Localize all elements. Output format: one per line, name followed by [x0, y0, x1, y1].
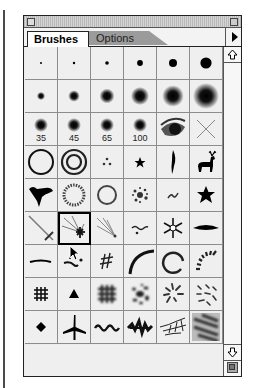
jagged-brush-icon [126, 313, 154, 341]
airplane-brush-icon [60, 313, 88, 341]
palette-menu-icon[interactable] [232, 32, 238, 42]
brush-tip-double-ring[interactable] [58, 146, 91, 179]
brush-tip-soft-round-17[interactable] [124, 80, 157, 113]
brush-tip-arc[interactable] [124, 245, 157, 278]
new-brush-button[interactable] [225, 361, 239, 374]
hard-round-brush-icon [192, 49, 220, 77]
brush-tip-tilde-dot[interactable] [124, 212, 157, 245]
brush-size-label: 65 [91, 133, 123, 143]
brush-tip-dash[interactable] [25, 245, 58, 278]
small-star-brush-icon [126, 148, 154, 176]
brush-tip-starburst[interactable] [58, 212, 91, 245]
scrollbar[interactable] [223, 47, 241, 376]
close-box[interactable] [27, 18, 35, 26]
soft-round-brush-icon [192, 82, 220, 110]
divider [225, 28, 226, 46]
brush-tip-star[interactable] [190, 179, 223, 212]
brush-tip-small-star[interactable] [124, 146, 157, 179]
brush-tip-soft-round-21[interactable] [157, 80, 190, 113]
brush-tip-hard-round-3[interactable] [58, 47, 91, 80]
brush-tip-thin-ring[interactable] [91, 179, 124, 212]
soft-round-brush-icon [27, 82, 55, 110]
brush-tip-wave[interactable] [91, 311, 124, 344]
brush-tip-fuzzy-grid[interactable] [91, 278, 124, 311]
brushes-palette: Brushes Options 354565100 [23, 15, 242, 377]
empty-brush-area [25, 345, 224, 376]
new-brush-icon [227, 362, 238, 373]
hard-round-brush-icon [126, 49, 154, 77]
brush-size-label: 100 [124, 133, 156, 143]
brush-tip-brush-stroke[interactable] [157, 146, 190, 179]
scroll-down-button[interactable] [224, 344, 241, 361]
brush-tip-eye[interactable] [157, 113, 190, 146]
tilde-dot-brush-icon [126, 214, 154, 242]
window-edge [3, 10, 5, 388]
ring-brush-icon [27, 148, 55, 176]
brush-tip-deer[interactable] [190, 146, 223, 179]
brush-tip-hard-round-9[interactable] [124, 47, 157, 80]
arrow-down-icon [227, 347, 238, 358]
rays-brush-icon [93, 214, 121, 242]
brush-tip-duck[interactable] [25, 179, 58, 212]
brush-tip-hard-round-2[interactable] [25, 47, 58, 80]
branches-brush-icon [159, 313, 187, 341]
brush-tip-soft-round-45[interactable]: 45 [58, 113, 91, 146]
palette-title-bar[interactable] [24, 16, 241, 28]
arrow-up-icon [227, 49, 238, 60]
scatter-blobs-brush-icon [126, 280, 154, 308]
brush-tip-x-cross[interactable] [190, 113, 223, 146]
brush-tip-diamond[interactable] [25, 311, 58, 344]
tab-brushes[interactable]: Brushes [27, 31, 89, 47]
snowflake-brush-icon [159, 214, 187, 242]
brush-tip-snowflake[interactable] [157, 212, 190, 245]
brush-tip-hard-round-5[interactable] [91, 47, 124, 80]
splatter-brush-icon [126, 181, 154, 209]
brush-tip-dotted-ring[interactable] [58, 179, 91, 212]
brush-tip-ring[interactable] [25, 146, 58, 179]
brush-tip-soft-round-5[interactable] [25, 80, 58, 113]
brush-tip-soft-round-65[interactable]: 65 [91, 113, 124, 146]
brush-tip-soft-round-27[interactable] [190, 80, 223, 113]
soft-round-brush-icon [159, 82, 187, 110]
fan-dashes-brush-icon [192, 247, 220, 275]
brush-tip-diagonal-streak[interactable] [25, 212, 58, 245]
brush-tip-grid[interactable] [25, 278, 58, 311]
scroll-up-button[interactable] [224, 47, 241, 63]
brush-tip-leaf-stroke[interactable] [190, 212, 223, 245]
brush-tip-soft-round-9[interactable] [58, 80, 91, 113]
hash-brush-icon [93, 247, 121, 275]
soft-round-brush-icon [93, 82, 121, 110]
brush-tip-swirl-marks[interactable] [157, 278, 190, 311]
thin-ring-brush-icon [93, 181, 121, 209]
brush-tip-hard-round-13[interactable] [157, 47, 190, 80]
brush-tip-airplane[interactable] [58, 311, 91, 344]
brush-tip-squiggle[interactable] [157, 179, 190, 212]
brush-tip-open-circle[interactable] [157, 245, 190, 278]
brush-tip-soft-round-35[interactable]: 35 [25, 113, 58, 146]
brush-tip-hash[interactable] [91, 245, 124, 278]
grid-brush-icon [27, 280, 55, 308]
brush-tip-dots-triad[interactable] [91, 146, 124, 179]
brush-tip-fan-dashes[interactable] [190, 245, 223, 278]
brush-tip-texture[interactable] [190, 311, 223, 344]
soft-round-brush-icon [126, 82, 154, 110]
brush-tip-jagged[interactable] [124, 311, 157, 344]
zoom-box[interactable] [230, 18, 238, 26]
brush-tip-rays[interactable] [91, 212, 124, 245]
brush-tip-hard-round-19[interactable] [190, 47, 223, 80]
brush-tip-branches[interactable] [157, 311, 190, 344]
brush-tip-soft-round-100[interactable]: 100 [124, 113, 157, 146]
brush-tip-triangle[interactable] [58, 278, 91, 311]
double-ring-brush-icon [60, 148, 88, 176]
brush-tip-soft-round-13[interactable] [91, 80, 124, 113]
tab-options[interactable]: Options [82, 31, 168, 45]
tab-bar: Brushes Options [24, 28, 241, 47]
x-cross-brush-icon [192, 115, 220, 143]
brush-tip-scatter-blobs[interactable] [124, 278, 157, 311]
brush-tip-scatter-marks[interactable] [190, 278, 223, 311]
brush-size-label: 35 [25, 133, 57, 143]
diamond-brush-icon [27, 313, 55, 341]
hard-round-brush-icon [27, 49, 55, 77]
starburst-brush-icon [60, 214, 88, 242]
brush-tip-splatter[interactable] [124, 179, 157, 212]
